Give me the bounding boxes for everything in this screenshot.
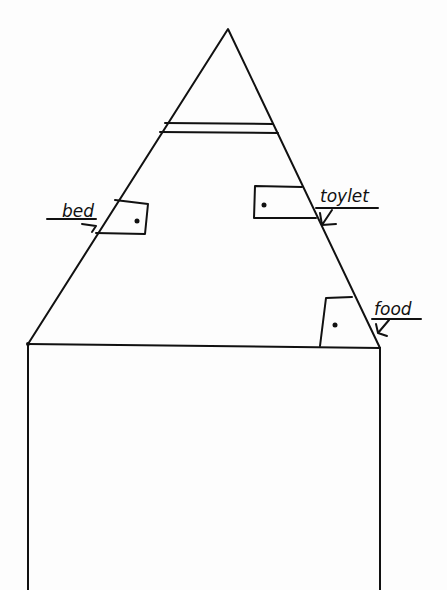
- toilet-box: [254, 186, 316, 218]
- roof-divider-line-2: [160, 132, 278, 133]
- sketch-canvas: bed toylet food: [0, 0, 447, 590]
- base-line: [28, 344, 380, 348]
- food-box: [320, 297, 352, 346]
- food-label: food: [374, 299, 412, 319]
- toilet-label-group: toylet: [316, 186, 378, 225]
- bed-box: [96, 200, 148, 234]
- toilet-label: toylet: [320, 186, 370, 206]
- food-label-group: food: [372, 299, 421, 336]
- bed-label-group: bed: [47, 201, 96, 232]
- corner-dot: [26, 342, 30, 346]
- roof-divider-line-1: [165, 123, 273, 124]
